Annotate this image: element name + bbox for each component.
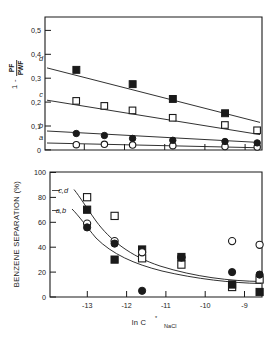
x-tick-label-minus13: -13 [82,301,92,310]
data-point [139,249,146,256]
top-panel-y-ticks [45,30,51,149]
bottom-panel-x-ticks [87,291,244,297]
data-point [229,238,236,245]
figure-svg: 0,5 0,4 0,3 0,2 0,1 0 1 - PF PWF [0,0,275,340]
figure-container: 0,5 0,4 0,3 0,2 0,1 0 1 - PF PWF [0,0,275,340]
top-panel-y-axis-title: 1 - PF PWF [8,60,24,89]
top-panel-curve-labels: d c b a [39,54,44,142]
y-axis-title-text: BENZENE SEPARATION (%) [12,181,21,287]
y-tick-label-0.3: 0,3 [31,74,41,83]
top-series-d-points [73,66,229,116]
curve-label-b: b [39,121,43,130]
x-axis-title-lead: ln C [132,318,147,327]
fit-line-c [47,100,260,134]
bottom-panel-y-tick-labels: 100 80 60 40 20 0 [34,168,46,302]
bottom-panel-y-ticks [50,173,56,298]
bottom-series-c-points [84,194,264,291]
data-point [178,254,185,261]
x-tick-label-minus9: -9 [241,301,247,310]
top-panel: 0,5 0,4 0,3 0,2 0,1 0 1 - PF PWF [8,17,262,155]
bottom-panel-frame [50,172,262,297]
data-point [256,241,263,248]
data-point [254,140,260,146]
data-point [170,137,176,143]
data-point [229,269,236,276]
data-point [222,138,228,144]
x-tick-label-minus10: -10 [200,301,210,310]
data-point [111,256,118,263]
y-axis-title-numerator: PF [8,64,15,72]
y-tick-label-20: 20 [38,268,46,277]
y-tick-label-0.5: 0,5 [31,26,41,35]
x-tick-label-minus11: -11 [161,301,171,310]
curve-label-a: a [39,133,43,142]
data-point [101,141,107,147]
data-point [101,103,108,110]
x-tick-label-minus12: -12 [121,301,131,310]
data-point [101,132,107,138]
y-tick-label-0.2: 0,2 [31,98,41,107]
data-point [73,98,80,105]
data-point [84,206,91,213]
data-point [254,127,261,134]
data-point [73,130,79,136]
data-point [129,81,136,88]
data-point [222,122,229,129]
y-axis-title-denominator: PWF [17,61,24,76]
bottom-series-a-points [84,220,264,261]
fit-curve-upper-cd [74,190,261,282]
data-point [178,261,185,268]
bottom-panel: 100 80 60 40 20 0 -13 -12 -11 -10 -9 [12,168,263,328]
data-point [73,142,79,148]
x-axis-title-superscript: * [155,315,158,321]
data-point [129,142,135,148]
bottom-panel-x-tick-labels: -13 -12 -11 -10 -9 [82,301,248,310]
x-axis-title-subscript: NaCl [164,323,176,329]
y-tick-label-100: 100 [34,168,46,177]
data-point [73,66,80,73]
data-point [84,194,91,201]
y-tick-label-0: 0 [37,146,41,155]
data-point [111,212,118,219]
data-point [139,287,146,294]
data-point [169,96,176,103]
data-point [169,115,176,122]
curve-label-d: d [39,54,44,63]
y-tick-label-0: 0 [42,293,46,302]
data-point [222,110,229,117]
y-tick-label-40: 40 [38,243,46,252]
data-point [111,240,118,247]
curve-label-c: c [39,90,43,99]
data-point [256,271,263,278]
data-point [84,224,91,231]
y-tick-label-80: 80 [38,193,46,202]
data-point [129,107,136,114]
data-point [129,135,135,141]
data-point [256,288,263,295]
data-point [229,281,236,288]
bottom-panel-curve-labels: c,d a,b [52,186,69,215]
y-axis-title-lead: 1 - [10,79,19,89]
bottom-panel-x-axis-title: ln C * NaCl [132,315,177,329]
y-tick-label-60: 60 [38,218,46,227]
bottom-panel-y-axis-title: BENZENE SEPARATION (%) [12,181,21,287]
bottom-panel-border [50,172,262,297]
